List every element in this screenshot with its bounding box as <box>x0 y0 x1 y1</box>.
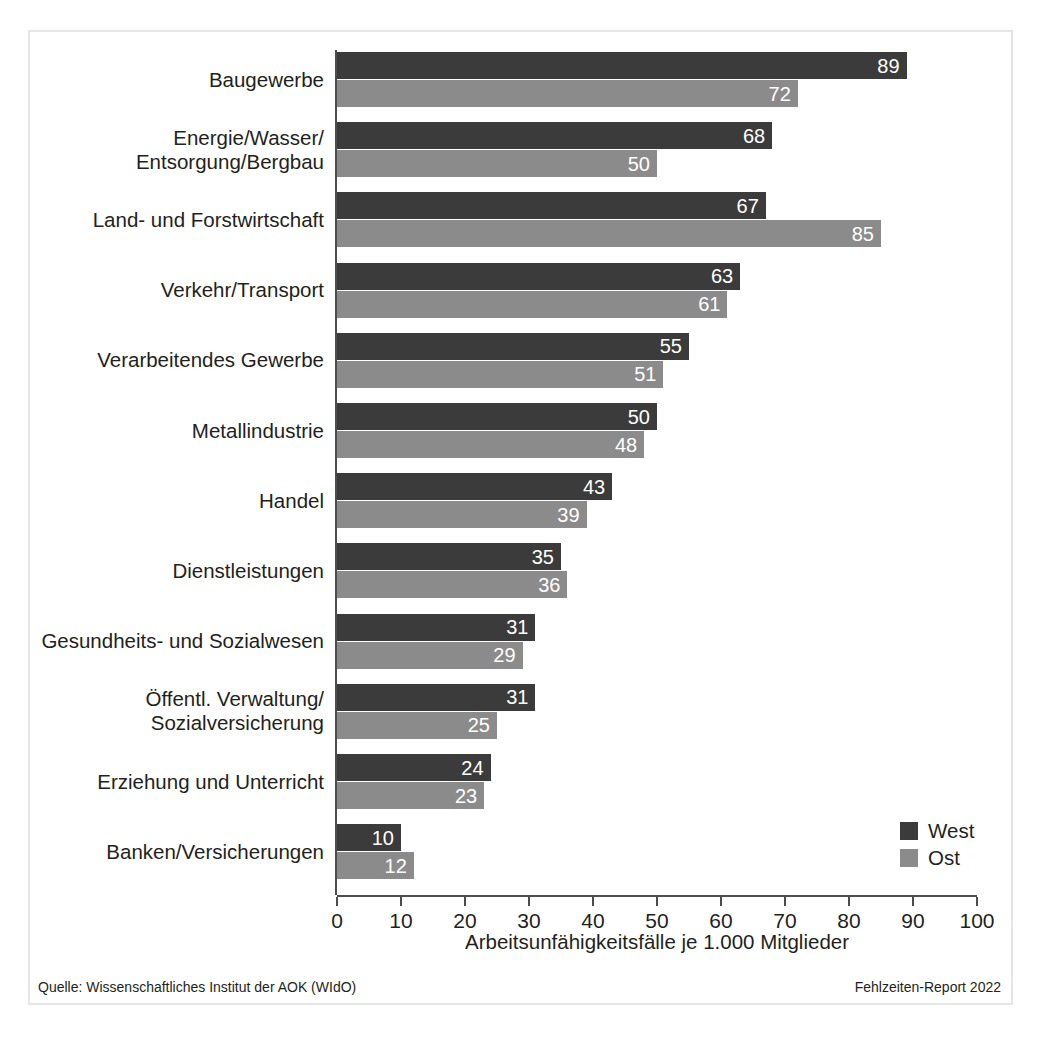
bar-group: 3129 <box>337 614 977 669</box>
category-label: Handel <box>34 489 324 513</box>
bar-ost: 72 <box>337 80 798 107</box>
bar-ost: 48 <box>337 431 644 458</box>
bar-ost: 12 <box>337 852 414 879</box>
bar-ost: 36 <box>337 571 567 598</box>
bar-value-label: 51 <box>634 364 656 384</box>
bar-ost: 61 <box>337 291 727 318</box>
bar-value-label: 55 <box>660 336 682 356</box>
x-tick-mark <box>400 897 402 906</box>
bar-group: 4339 <box>337 473 977 528</box>
bar-west: 63 <box>337 263 740 290</box>
x-tick-mark <box>976 897 978 906</box>
category-label: Gesundheits- und Sozialwesen <box>34 629 324 653</box>
legend-label: West <box>928 819 974 843</box>
bar-value-label: 35 <box>532 547 554 567</box>
bar-value-label: 24 <box>461 758 483 778</box>
category-label: Öffentl. Verwaltung/ Sozialversicherung <box>34 687 324 735</box>
bar-value-label: 12 <box>385 856 407 876</box>
category-label: Banken/Versicherungen <box>34 840 324 864</box>
legend-item-ost[interactable]: Ost <box>900 844 974 871</box>
bar-west: 50 <box>337 403 657 430</box>
x-tick-mark <box>656 897 658 906</box>
x-tick-mark <box>464 897 466 906</box>
plot-area: 8972685067856361555150484339353631293125… <box>337 50 977 895</box>
bar-ost: 25 <box>337 712 497 739</box>
category-label: Baugewerbe <box>34 68 324 92</box>
x-tick-mark <box>336 897 338 906</box>
legend-label: Ost <box>928 846 960 870</box>
category-label: Dienstleistungen <box>34 559 324 583</box>
category-label: Verkehr/Transport <box>34 278 324 302</box>
bar-ost: 50 <box>337 150 657 177</box>
x-tick-mark <box>592 897 594 906</box>
bar-value-label: 36 <box>538 575 560 595</box>
bar-group: 8972 <box>337 52 977 107</box>
bar-value-label: 67 <box>737 196 759 216</box>
bar-west: 68 <box>337 122 772 149</box>
bar-value-label: 25 <box>468 715 490 735</box>
bar-group: 6785 <box>337 192 977 247</box>
bar-value-label: 50 <box>628 407 650 427</box>
bar-west: 43 <box>337 473 612 500</box>
bar-west: 35 <box>337 543 561 570</box>
bar-group: 2423 <box>337 754 977 809</box>
bar-value-label: 61 <box>698 294 720 314</box>
bar-ost: 29 <box>337 642 523 669</box>
bar-value-label: 50 <box>628 154 650 174</box>
bar-west: 31 <box>337 684 535 711</box>
bar-group: 6361 <box>337 263 977 318</box>
bar-value-label: 72 <box>769 84 791 104</box>
x-tick-mark <box>848 897 850 906</box>
bar-value-label: 89 <box>877 56 899 76</box>
category-label: Erziehung und Unterricht <box>34 770 324 794</box>
x-tick-mark <box>720 897 722 906</box>
footer-report: Fehlzeiten-Report 2022 <box>855 979 1001 995</box>
bar-value-label: 31 <box>506 687 528 707</box>
bar-group: 3125 <box>337 684 977 739</box>
chart-figure: BaugewerbeEnergie/Wasser/ Entsorgung/Ber… <box>28 30 1013 1005</box>
bar-ost: 51 <box>337 361 663 388</box>
legend-swatch-icon <box>900 849 918 867</box>
bar-ost: 23 <box>337 782 484 809</box>
bar-value-label: 43 <box>583 477 605 497</box>
bar-value-label: 68 <box>743 126 765 146</box>
bar-west: 31 <box>337 614 535 641</box>
bar-ost: 85 <box>337 220 881 247</box>
footer: Quelle: Wissenschaftliches Institut der … <box>38 979 1001 995</box>
bar-value-label: 31 <box>506 617 528 637</box>
bar-value-label: 85 <box>852 224 874 244</box>
bar-west: 67 <box>337 192 766 219</box>
legend-swatch-icon <box>900 822 918 840</box>
bar-value-label: 10 <box>372 828 394 848</box>
category-label: Land- und Forstwirtschaft <box>34 208 324 232</box>
bar-west: 89 <box>337 52 907 79</box>
footer-source: Quelle: Wissenschaftliches Institut der … <box>38 979 356 995</box>
bar-group: 1012 <box>337 824 977 879</box>
bar-group: 5551 <box>337 333 977 388</box>
bar-group: 5048 <box>337 403 977 458</box>
category-axis-labels: BaugewerbeEnergie/Wasser/ Entsorgung/Ber… <box>30 50 324 895</box>
bar-west: 10 <box>337 824 401 851</box>
bar-value-label: 29 <box>493 645 515 665</box>
bar-group: 3536 <box>337 543 977 598</box>
x-tick-mark <box>912 897 914 906</box>
category-label: Energie/Wasser/ Entsorgung/Bergbau <box>34 126 324 174</box>
bar-value-label: 48 <box>615 435 637 455</box>
category-label: Metallindustrie <box>34 419 324 443</box>
bar-value-label: 23 <box>455 786 477 806</box>
x-axis-title: Arbeitsunfähigkeitsfälle je 1.000 Mitgli… <box>337 930 977 954</box>
bar-value-label: 39 <box>557 505 579 525</box>
legend-item-west[interactable]: West <box>900 817 974 844</box>
bar-west: 24 <box>337 754 491 781</box>
category-label: Verarbeitendes Gewerbe <box>34 348 324 372</box>
bar-west: 55 <box>337 333 689 360</box>
x-tick-mark <box>784 897 786 906</box>
bar-value-label: 63 <box>711 266 733 286</box>
x-tick-mark <box>528 897 530 906</box>
chart-legend: WestOst <box>900 817 974 871</box>
bar-group: 6850 <box>337 122 977 177</box>
bar-ost: 39 <box>337 501 587 528</box>
